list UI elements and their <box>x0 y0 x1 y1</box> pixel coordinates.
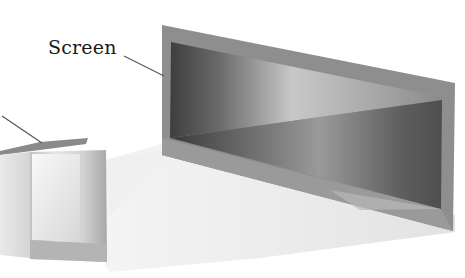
left-object-pointer-line <box>2 116 42 143</box>
box-inner-panel <box>32 154 80 240</box>
screen-label: Screen <box>48 36 117 58</box>
box-left-face <box>0 152 30 258</box>
screen-pointer-line <box>124 56 164 76</box>
